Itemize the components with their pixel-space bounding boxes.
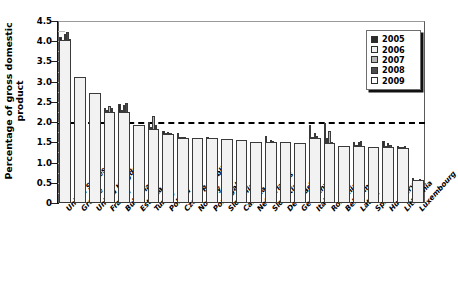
- y-axis-tick: [51, 82, 57, 83]
- legend-item[interactable]: 2006: [371, 44, 416, 54]
- bar-body[interactable]: [353, 146, 365, 203]
- bar-body[interactable]: [280, 142, 292, 203]
- bar-body[interactable]: [382, 147, 394, 203]
- bar-body[interactable]: [368, 147, 380, 203]
- legend-item[interactable]: 2007: [371, 55, 416, 65]
- bar-body[interactable]: [250, 142, 262, 203]
- y-axis-tick: [51, 163, 57, 164]
- legend-label: 2006: [382, 45, 405, 55]
- y-axis-tick: [51, 203, 57, 204]
- y-axis-tick: [51, 183, 57, 184]
- legend-swatch-icon: [371, 36, 378, 43]
- bar-body[interactable]: [221, 139, 233, 203]
- bar-group[interactable]: [59, 21, 71, 203]
- legend-label: 2009: [382, 76, 405, 86]
- y-axis-tick: [51, 21, 57, 22]
- bar-body[interactable]: [236, 140, 248, 203]
- bar-body[interactable]: [118, 112, 130, 203]
- bar-body[interactable]: [412, 180, 424, 203]
- legend-item[interactable]: 2008: [371, 65, 416, 75]
- chart-legend: 20052006200720082009: [366, 30, 421, 90]
- bar-body[interactable]: [192, 138, 204, 203]
- legend-label: 2005: [382, 34, 405, 44]
- y-axis-tick: [51, 102, 57, 103]
- bar-body[interactable]: [104, 112, 116, 203]
- bar-body[interactable]: [324, 143, 336, 203]
- minor-gridline-tick: [58, 31, 65, 32]
- legend-swatch-icon: [371, 77, 378, 84]
- legend-swatch-icon: [371, 46, 378, 53]
- bar-body[interactable]: [338, 146, 350, 203]
- bar-body[interactable]: [133, 125, 145, 203]
- bar-body[interactable]: [397, 148, 409, 203]
- y-axis-tick: [51, 41, 57, 42]
- bar-body[interactable]: [162, 134, 174, 203]
- y-axis-tick: [51, 61, 57, 62]
- bar-body[interactable]: [294, 143, 306, 203]
- bar-body[interactable]: [265, 142, 277, 203]
- legend-swatch-icon: [371, 56, 378, 63]
- bar-body[interactable]: [148, 129, 160, 203]
- y-axis-tick: [51, 142, 57, 143]
- bar-body[interactable]: [206, 138, 218, 203]
- bar-body[interactable]: [59, 40, 71, 203]
- legend-item[interactable]: 2005: [371, 34, 416, 44]
- y-axis-tick: [51, 122, 57, 123]
- bar-body[interactable]: [177, 138, 189, 203]
- bar-body[interactable]: [89, 93, 101, 203]
- legend-swatch-icon: [371, 67, 378, 74]
- bar-body[interactable]: [74, 77, 86, 203]
- legend-label: 2008: [382, 65, 405, 75]
- legend-label: 2007: [382, 55, 405, 65]
- bar-body[interactable]: [309, 138, 321, 203]
- legend-item[interactable]: 2009: [371, 76, 416, 86]
